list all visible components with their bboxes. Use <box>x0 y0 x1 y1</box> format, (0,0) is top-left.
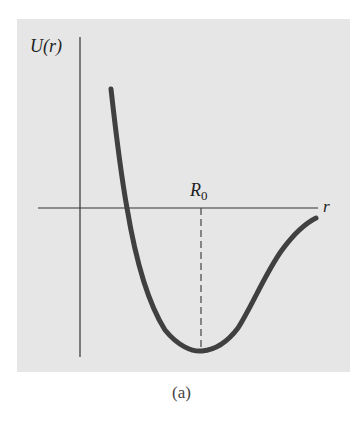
r0-label-subscript: 0 <box>201 188 208 203</box>
chart-panel-background <box>17 19 350 372</box>
potential-energy-chart: U(r) r R0 <box>0 0 363 423</box>
figure-caption: (a) <box>0 383 363 403</box>
x-axis-label: r <box>323 197 330 216</box>
r0-label-main: R <box>189 180 201 200</box>
y-axis-label: U(r) <box>30 36 62 57</box>
